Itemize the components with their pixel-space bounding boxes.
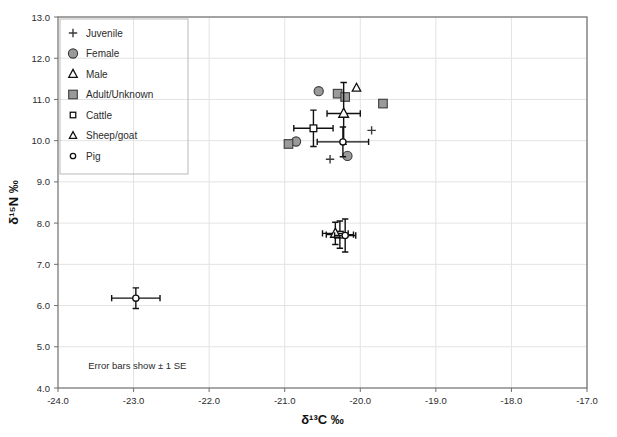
y-axis: 4.05.06.07.08.09.010.011.012.013.0δ¹⁵N ‰ xyxy=(6,12,58,394)
legend-label-male: Male xyxy=(86,69,108,80)
series-male xyxy=(352,83,360,91)
error-bar-note: Error bars show ± 1 SE xyxy=(88,360,186,371)
marker-circle xyxy=(343,151,352,160)
y-axis-title: δ¹⁵N ‰ xyxy=(6,180,21,224)
y-tick-label: 5.0 xyxy=(37,341,50,352)
marker-triangle xyxy=(69,69,77,77)
x-tick-label: -24.0 xyxy=(47,395,69,406)
plot-border xyxy=(58,17,587,388)
marker-circle xyxy=(70,153,75,158)
x-tick-label: -20.0 xyxy=(349,395,371,406)
x-tick-label: -19.0 xyxy=(425,395,447,406)
grid-layer xyxy=(58,17,587,388)
marker-circle xyxy=(133,295,139,301)
y-tick-label: 12.0 xyxy=(32,53,51,64)
y-tick-label: 9.0 xyxy=(37,176,50,187)
series-sheep-goat xyxy=(323,83,361,245)
marker-plus xyxy=(367,126,375,134)
annotation-layer: Error bars show ± 1 SE xyxy=(88,360,186,371)
marker-circle xyxy=(342,232,348,238)
marker-circle xyxy=(314,87,323,96)
y-tick-label: 10.0 xyxy=(32,135,51,146)
marker-square xyxy=(379,99,388,108)
marker-circle xyxy=(340,139,346,145)
x-tick-label: -17.0 xyxy=(576,395,598,406)
marker-square xyxy=(310,125,317,132)
series-pig xyxy=(112,127,369,308)
y-tick-label: 8.0 xyxy=(37,218,50,229)
x-axis: -24.0-23.0-22.0-21.0-20.0-19.0-18.0-17.0… xyxy=(47,388,598,427)
x-tick-label: -23.0 xyxy=(123,395,145,406)
marker-square xyxy=(69,90,78,99)
legend-label-adult-unknown: Adult/Unknown xyxy=(86,89,153,100)
marker-triangle xyxy=(69,132,76,139)
plot-frame xyxy=(58,17,587,388)
legend-label-sheep-goat: Sheep/goat xyxy=(86,130,137,141)
marker-square xyxy=(70,112,76,118)
x-tick-label: -22.0 xyxy=(198,395,220,406)
marker-triangle xyxy=(352,83,360,91)
marker-plus xyxy=(69,29,77,37)
legend-label-cattle: Cattle xyxy=(86,110,113,121)
marker-plus xyxy=(326,155,334,163)
legend-label-pig: Pig xyxy=(86,151,100,162)
marker-triangle xyxy=(339,108,349,117)
y-tick-label: 7.0 xyxy=(37,259,50,270)
y-tick-label: 4.0 xyxy=(37,383,50,394)
legend-label-female: Female xyxy=(86,48,120,59)
legend-label-juvenile: Juvenile xyxy=(86,28,123,39)
chart-svg: 4.05.06.07.08.09.010.011.012.013.0δ¹⁵N ‰… xyxy=(0,0,617,437)
x-tick-label: -18.0 xyxy=(501,395,523,406)
legend: JuvenileFemaleMaleAdult/UnknownCattleShe… xyxy=(60,19,188,174)
x-axis-title: δ¹³C ‰ xyxy=(301,412,344,427)
y-tick-label: 11.0 xyxy=(32,94,50,105)
marker-square xyxy=(341,93,350,102)
marker-circle xyxy=(68,49,77,58)
scatter-plot-figure: 4.05.06.07.08.09.010.011.012.013.0δ¹⁵N ‰… xyxy=(0,0,617,437)
marker-square xyxy=(284,140,293,149)
x-tick-label: -21.0 xyxy=(274,395,296,406)
y-tick-label: 13.0 xyxy=(32,12,51,23)
y-tick-label: 6.0 xyxy=(37,300,50,311)
